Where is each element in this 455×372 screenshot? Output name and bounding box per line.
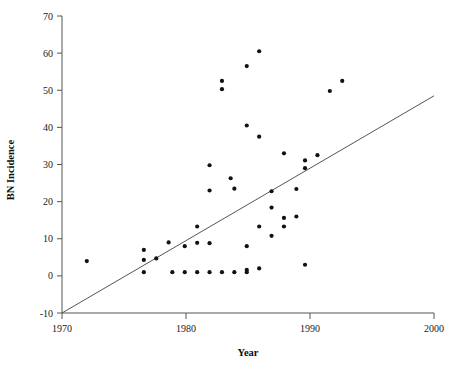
- data-point: [294, 187, 298, 191]
- y-tick-label: 0: [48, 270, 53, 281]
- data-point: [232, 187, 236, 191]
- data-point: [207, 163, 211, 167]
- x-axis-tick-marks: [62, 313, 434, 319]
- data-point: [257, 266, 261, 270]
- data-point: [245, 123, 249, 127]
- data-point: [183, 244, 187, 248]
- y-tick-label: 40: [43, 122, 53, 133]
- y-tick-label: 70: [43, 11, 53, 22]
- data-point: [269, 189, 273, 193]
- data-point: [282, 224, 286, 228]
- data-point: [195, 241, 199, 245]
- y-tick-label: 10: [43, 233, 53, 244]
- data-point: [195, 224, 199, 228]
- y-tick-label: 30: [43, 159, 53, 170]
- x-axis-tick-labels: 1970198019902000: [52, 323, 444, 334]
- data-point: [142, 270, 146, 274]
- y-tick-label: 60: [43, 48, 53, 59]
- x-tick-label: 1980: [176, 323, 196, 334]
- x-tick-label: 1990: [300, 323, 320, 334]
- data-point: [245, 244, 249, 248]
- data-point: [269, 234, 273, 238]
- data-point: [340, 79, 344, 83]
- data-point: [303, 166, 307, 170]
- data-point: [220, 87, 224, 91]
- data-points-layer: [85, 49, 345, 274]
- data-point: [195, 270, 199, 274]
- y-axis-tick-labels: -10010203040506070: [40, 11, 53, 319]
- data-point: [282, 151, 286, 155]
- data-point: [142, 248, 146, 252]
- data-point: [154, 256, 158, 260]
- data-point: [245, 270, 249, 274]
- data-point: [303, 158, 307, 162]
- data-point: [220, 79, 224, 83]
- data-point: [207, 270, 211, 274]
- data-point: [294, 214, 298, 218]
- data-point: [257, 49, 261, 53]
- data-point: [315, 153, 319, 157]
- data-point: [328, 89, 332, 93]
- y-tick-label: 20: [43, 196, 53, 207]
- data-point: [245, 64, 249, 68]
- data-point: [257, 224, 261, 228]
- data-point: [142, 258, 146, 262]
- data-point: [257, 135, 261, 139]
- y-axis-title: BN Incidence: [5, 139, 16, 200]
- y-tick-label: -10: [40, 308, 53, 319]
- data-point: [269, 205, 273, 209]
- data-point: [303, 263, 307, 267]
- data-point: [220, 270, 224, 274]
- data-point: [232, 270, 236, 274]
- data-point: [229, 176, 233, 180]
- x-tick-label: 1970: [52, 323, 72, 334]
- x-axis-title: Year: [238, 347, 259, 358]
- y-tick-label: 50: [43, 85, 53, 96]
- x-tick-label: 2000: [424, 323, 444, 334]
- data-point: [282, 216, 286, 220]
- data-point: [170, 270, 174, 274]
- plot-canvas: -10010203040506070 1970198019902000 Year…: [0, 0, 455, 372]
- data-point: [207, 241, 211, 245]
- data-point: [183, 270, 187, 274]
- data-point: [167, 240, 171, 244]
- scatter-plot-figure: -10010203040506070 1970198019902000 Year…: [0, 0, 455, 372]
- regression-trend-line: [62, 96, 434, 313]
- data-point: [85, 259, 89, 263]
- data-point: [207, 188, 211, 192]
- y-axis-tick-marks: [57, 16, 62, 313]
